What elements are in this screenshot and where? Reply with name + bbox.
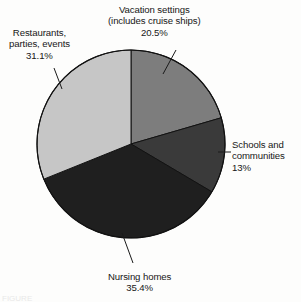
slice-label-nursing-line1: Nursing homes [108, 271, 171, 282]
figure-caption-clipped: FIGURE [2, 295, 182, 302]
slice-label-restaurants-percent: 31.1% [9, 50, 70, 61]
pie-slice-group [37, 50, 225, 238]
slice-label-restaurants: Restaurants, parties, events 31.1% [9, 27, 70, 61]
slice-label-nursing-homes: Nursing homes 35.4% [108, 271, 171, 294]
slice-label-nursing-percent: 35.4% [108, 282, 171, 293]
slice-label-restaurants-line2: parties, events [9, 38, 70, 49]
slice-label-schools-percent: 13% [232, 162, 285, 173]
slice-label-schools: Schools and communities 13% [232, 139, 285, 173]
slice-label-schools-line2: communities [232, 150, 285, 161]
slice-label-restaurants-line1: Restaurants, [9, 27, 70, 38]
slice-label-vacation-settings: Vacation settings (includes cruise ships… [108, 4, 201, 38]
slice-label-vacation-line1: Vacation settings [108, 4, 201, 15]
slice-label-vacation-percent: 20.5% [108, 27, 201, 38]
slice-label-schools-line1: Schools and [232, 139, 285, 150]
pie-chart-figure: Vacation settings (includes cruise ships… [0, 0, 301, 302]
slice-label-vacation-line2: (includes cruise ships) [108, 15, 201, 26]
